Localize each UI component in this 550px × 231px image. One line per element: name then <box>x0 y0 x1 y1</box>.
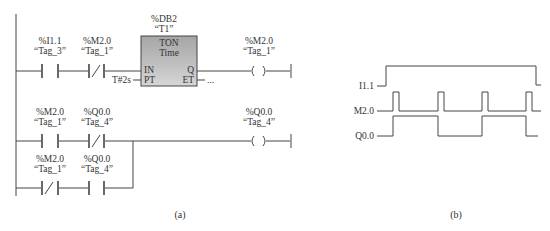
contact-m2-0-nc-branch: %M2.0 “Tag_1” <box>34 154 66 195</box>
timer-pt-value: T#2s <box>112 75 131 85</box>
timer-subtype: Time <box>159 48 179 58</box>
contact-tag: “Tag_1” <box>34 117 66 127</box>
contact-i1-1: %I1.1 “Tag_3” <box>34 36 66 78</box>
contact-tag: “Tag_4” <box>81 117 113 127</box>
contact-address: %Q0.0 <box>84 107 111 117</box>
contact-m2-0-nc: %M2.0 “Tag_1” <box>81 36 113 78</box>
contact-m2-0-no: %M2.0 “Tag_1” <box>34 107 66 148</box>
timer-et-label: ET <box>182 75 194 85</box>
coil-address: %M2.0 <box>245 36 273 46</box>
timer-name: “T1” <box>155 24 174 34</box>
signal-label-q0-0: Q0.0 <box>355 131 374 141</box>
coil-m2-0: %M2.0 “Tag_1” <box>243 36 275 76</box>
coil-tag: “Tag_1” <box>243 46 275 56</box>
coil-address: %Q0.0 <box>246 107 273 117</box>
signal-label-m2-0: M2.0 <box>354 106 375 116</box>
network-2: %M2.0 “Tag_1” %Q0.0 “Tag_4” %Q0.0 “Tag_4… <box>16 107 291 195</box>
contact-address: %M2.0 <box>36 154 64 164</box>
contact-q0-0-no-branch: %Q0.0 “Tag_4” <box>81 154 113 195</box>
ton-timer-block: %DB2 “T1” TON Time IN PT Q ET T#2s ... <box>112 14 214 86</box>
timer-et-value: ... <box>207 75 214 85</box>
contact-q0-0-nc: %Q0.0 “Tag_4” <box>81 107 113 148</box>
contact-address: %I1.1 <box>39 36 62 46</box>
contact-tag: “Tag_1” <box>34 164 66 174</box>
contact-tag: “Tag_4” <box>81 164 113 174</box>
contact-tag: “Tag_3” <box>34 46 66 56</box>
timer-type: TON <box>159 38 178 48</box>
caption-a: (a) <box>174 209 185 221</box>
caption-b: (b) <box>450 209 462 221</box>
timer-pt-label: PT <box>144 75 155 85</box>
timer-q-label: Q <box>187 65 194 75</box>
network-1: %I1.1 “Tag_3” %M2.0 “Tag_1” %DB2 “T1” TO… <box>16 14 291 86</box>
waveform-i1-1 <box>377 66 541 86</box>
signal-label-i1-1: I1.1 <box>359 81 374 91</box>
ladder-diagram: %I1.1 “Tag_3” %M2.0 “Tag_1” %DB2 “T1” TO… <box>16 14 291 221</box>
waveform-m2-0 <box>377 92 541 111</box>
contact-tag: “Tag_1” <box>81 46 113 56</box>
contact-address: %Q0.0 <box>84 154 111 164</box>
coil-tag: “Tag_4” <box>243 117 275 127</box>
timer-in-label: IN <box>144 65 154 75</box>
waveform-q0-0 <box>377 116 538 136</box>
contact-address: %M2.0 <box>83 36 111 46</box>
coil-q0-0: %Q0.0 “Tag_4” <box>243 107 275 146</box>
contact-address: %M2.0 <box>36 107 64 117</box>
timing-diagram: I1.1 M2.0 Q0.0 (b) <box>354 66 541 221</box>
figure-canvas: %I1.1 “Tag_3” %M2.0 “Tag_1” %DB2 “T1” TO… <box>0 0 550 231</box>
timer-db: %DB2 <box>151 14 177 24</box>
